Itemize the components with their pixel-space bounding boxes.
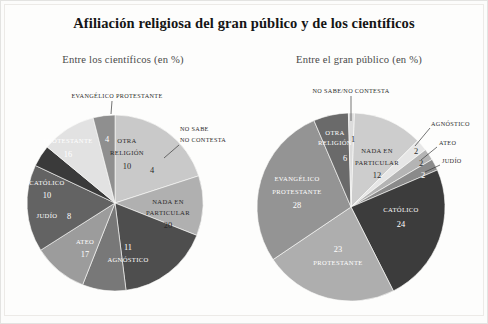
left-chart-subtitle: Entre los científicos (en %) bbox=[23, 54, 223, 65]
figure-root: Afiliación religiosa del gran público y … bbox=[0, 0, 488, 324]
figure-frame bbox=[4, 4, 484, 316]
page-title: Afiliación religiosa del gran público y … bbox=[1, 15, 487, 32]
right-chart-subtitle: Entre el gran público (en %) bbox=[259, 54, 459, 65]
